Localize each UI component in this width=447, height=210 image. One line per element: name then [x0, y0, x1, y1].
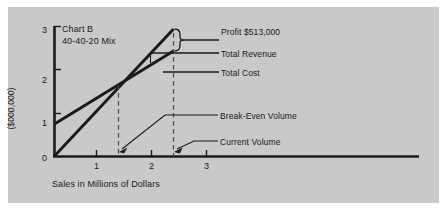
chart-subtitle: 40-40-20 Mix — [62, 35, 116, 47]
annotation-break-even-volume: Break-Even Volume — [220, 111, 297, 122]
annotation-total-revenue: Total Revenue — [221, 49, 277, 60]
y-tick-label-2: 2 — [42, 75, 47, 86]
total-cost-line — [55, 51, 174, 124]
total-revenue-line — [55, 29, 174, 156]
y-tick-label-0: 0 — [42, 153, 47, 164]
chart-title-block: Chart B 40-40-20 Mix — [62, 23, 116, 47]
x-tick-label-3: 3 — [204, 161, 209, 172]
break-even-leader-line — [122, 115, 218, 149]
x-tick-label-1: 1 — [94, 161, 99, 172]
y-tick-label-3: 3 — [42, 25, 47, 36]
x-axis-label: Sales in Millions of Dollars — [52, 179, 160, 190]
chart-panel: Chart B 40-40-20 Mix ($000,000) Sales in… — [8, 7, 439, 203]
x-tick-label-2: 2 — [149, 161, 154, 172]
y-axis-label: ($000,000) — [6, 87, 17, 129]
profit-brace — [175, 29, 184, 51]
chart-title: Chart B — [62, 23, 116, 35]
annotation-profit: Profit $513,000 — [221, 27, 280, 38]
annotation-total-cost: Total Cost — [221, 68, 260, 79]
y-tick-label-1: 1 — [42, 118, 47, 129]
current-volume-leader-line — [177, 141, 218, 149]
annotation-current-volume: Current Volume — [220, 137, 280, 148]
